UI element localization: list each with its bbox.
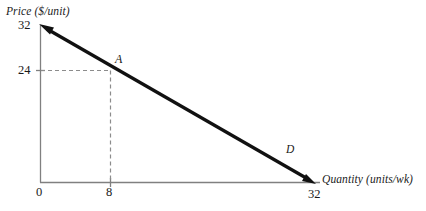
y-axis-tick-label-32: 32 [18,19,31,32]
curve-label-d: D [286,144,294,156]
y-axis-tick-label-24: 24 [18,64,31,77]
x-axis-tick-label-32: 32 [308,188,321,201]
x-axis-tick-label-8: 8 [106,186,112,199]
demand-curve-chart: Price ($/unit) Quantity (units/wk) 32 24… [0,0,426,211]
point-label-a: A [115,53,122,65]
y-axis-title: Price ($/unit) [6,6,70,18]
x-axis-title: Quantity (units/wk) [322,174,413,186]
demand-curve-line [47,29,307,179]
x-axis-tick-label-0: 0 [36,186,42,199]
